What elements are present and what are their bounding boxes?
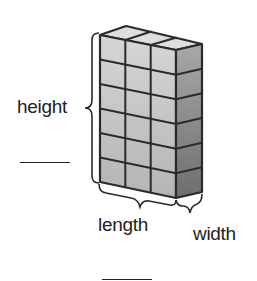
height-answer-blank[interactable] bbox=[20, 162, 70, 163]
length-label: length bbox=[98, 215, 148, 234]
height-label: height bbox=[17, 97, 67, 116]
volume-answer-blank[interactable] bbox=[102, 279, 152, 280]
height-brace bbox=[85, 33, 99, 183]
prism-diagram: height length width bbox=[0, 0, 257, 281]
width-label: width bbox=[193, 224, 236, 243]
